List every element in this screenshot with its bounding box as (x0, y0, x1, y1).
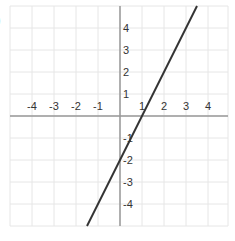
axes (10, 6, 228, 226)
y-tick-label: -3 (123, 176, 133, 188)
y-tick-label: -2 (123, 154, 133, 166)
x-tick-label: -4 (27, 100, 37, 112)
x-tick-label: 2 (161, 100, 167, 112)
y-tick-label: -4 (123, 198, 133, 210)
x-tick-label: -1 (93, 100, 103, 112)
y-tick-label: 3 (123, 44, 129, 56)
x-tick-label: 3 (183, 100, 189, 112)
x-tick-label: -3 (49, 100, 59, 112)
y-tick-label: 2 (123, 66, 129, 78)
coordinate-plane: -4-3-2-112344321-1-2-3-4 (0, 0, 235, 241)
y-tick-label: 1 (123, 88, 129, 100)
x-tick-label: 4 (205, 100, 211, 112)
y-tick-label: 4 (123, 22, 129, 34)
x-tick-label: -2 (71, 100, 81, 112)
